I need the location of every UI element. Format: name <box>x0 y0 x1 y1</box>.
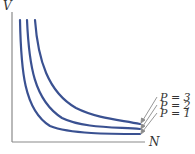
curve-p2 <box>27 20 140 129</box>
label-arrows <box>141 97 157 134</box>
curve-p1 <box>20 20 140 134</box>
curves <box>20 20 140 134</box>
x-axis-label: N <box>148 135 160 149</box>
label-p1: P = 1 <box>159 107 191 120</box>
y-axis-label: V <box>3 0 13 13</box>
arrowhead-p2 <box>141 124 145 129</box>
series-labels: P = 3 P = 2 P = 1 <box>159 91 191 120</box>
arrowhead-p3 <box>141 118 145 123</box>
isobar-diagram: V N P = 3 P = 2 P = 1 <box>0 0 195 154</box>
